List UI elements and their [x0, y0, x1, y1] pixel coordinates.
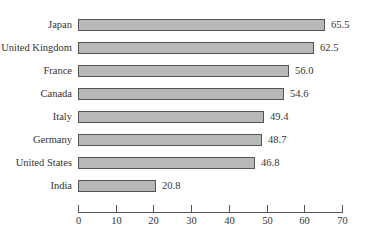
- value-label: 62.5: [320, 41, 338, 55]
- category-label: Japan: [48, 18, 72, 32]
- bar: [78, 180, 156, 192]
- bar-row: Germany48.7: [0, 134, 367, 146]
- value-label: 49.4: [270, 110, 288, 124]
- x-tick-mark: [304, 205, 305, 213]
- bar-row: France56.0: [0, 65, 367, 77]
- x-tick-mark: [78, 205, 79, 213]
- x-tick-label: 50: [262, 215, 273, 227]
- x-tick-label: 70: [337, 215, 348, 227]
- x-tick-label: 60: [299, 215, 310, 227]
- bar: [78, 134, 262, 146]
- x-tick-mark: [229, 205, 230, 213]
- x-tick-label: 0: [76, 215, 81, 227]
- category-label: Italy: [53, 110, 72, 124]
- x-tick-mark: [342, 205, 343, 213]
- bar: [78, 19, 325, 31]
- x-tick-label: 30: [186, 215, 197, 227]
- category-label: France: [43, 64, 72, 78]
- category-label: Germany: [33, 133, 72, 147]
- bar: [78, 42, 314, 54]
- x-tick-label: 10: [111, 215, 122, 227]
- bar: [78, 157, 255, 169]
- x-tick-mark: [267, 205, 268, 213]
- category-label: Canada: [41, 87, 73, 101]
- value-label: 54.6: [290, 87, 308, 101]
- bar-row: United States46.8: [0, 157, 367, 169]
- bar-row: India20.8: [0, 180, 367, 192]
- value-label: 20.8: [162, 179, 180, 193]
- bar-row: Canada54.6: [0, 88, 367, 100]
- category-label: India: [50, 179, 72, 193]
- value-label: 56.0: [295, 64, 313, 78]
- bar: [78, 88, 284, 100]
- x-tick-mark: [116, 205, 117, 213]
- x-tick-label: 20: [148, 215, 159, 227]
- category-label: United Kingdom: [1, 41, 72, 55]
- x-tick-mark: [153, 205, 154, 213]
- value-label: 65.5: [331, 18, 349, 32]
- x-tick-label: 40: [224, 215, 235, 227]
- bar-row: Italy49.4: [0, 111, 367, 123]
- value-label: 48.7: [268, 133, 286, 147]
- value-label: 46.8: [261, 156, 279, 170]
- bar: [78, 65, 289, 77]
- category-label: United States: [16, 156, 72, 170]
- horizontal-bar-chart: Japan65.5United Kingdom62.5France56.0Can…: [0, 0, 367, 233]
- bar: [78, 111, 264, 123]
- bar-row: United Kingdom62.5: [0, 42, 367, 54]
- x-tick-mark: [191, 205, 192, 213]
- bar-row: Japan65.5: [0, 19, 367, 31]
